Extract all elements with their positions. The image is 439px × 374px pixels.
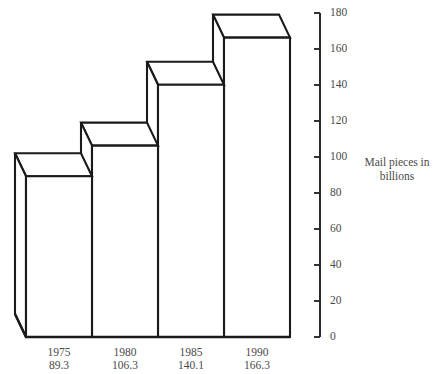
bar-front-face (224, 38, 290, 337)
y-axis-tick-label: 100 (330, 150, 348, 162)
y-axis-title: Mail pieces in billions (349, 156, 439, 183)
bars-group (15, 15, 290, 337)
bar-1975 (15, 153, 92, 337)
y-axis-tick-label: 120 (330, 114, 348, 126)
y-axis-tick-label: 20 (330, 294, 342, 306)
y-axis-tick-label: 60 (330, 222, 342, 234)
bar-front-face (26, 176, 92, 337)
y-axis-title-line-1: Mail pieces in (349, 156, 439, 170)
bar-top-face (147, 62, 224, 85)
x-axis-category-label: 1990 (246, 346, 269, 358)
bar-side-face (15, 153, 26, 337)
bar-chart: 020406080100120140160180 197589.31980106… (0, 0, 439, 374)
y-axis-tick-label: 0 (330, 330, 336, 342)
x-axis-category-label: 1975 (48, 346, 71, 358)
bar-value-label: 166.3 (244, 359, 270, 371)
x-axis-category-label: 1985 (180, 346, 203, 358)
bar-front-face (158, 85, 224, 337)
y-axis-tick-labels: 020406080100120140160180 (330, 6, 348, 342)
chart-canvas: 020406080100120140160180 197589.31980106… (0, 0, 439, 374)
y-axis-tick-label: 80 (330, 186, 342, 198)
bar-top-face (213, 15, 290, 38)
bar-value-label: 89.3 (49, 359, 69, 371)
bar-value-label: 140.1 (178, 359, 204, 371)
y-axis-tick-label: 160 (330, 42, 348, 54)
x-axis-category-label: 1980 (114, 346, 137, 358)
y-axis-tick-label: 40 (330, 258, 342, 270)
bar-top-face (15, 153, 92, 176)
y-axis (314, 13, 320, 337)
y-axis-tick-label: 140 (330, 78, 348, 90)
bar-front-face (92, 146, 158, 337)
y-axis-tick-label: 180 (330, 6, 348, 18)
x-axis-category-labels: 197589.31980106.31985140.11990166.3 (48, 346, 271, 371)
y-axis-title-line-2: billions (349, 170, 439, 184)
bar-value-label: 106.3 (112, 359, 138, 371)
bar-top-face (81, 123, 158, 146)
